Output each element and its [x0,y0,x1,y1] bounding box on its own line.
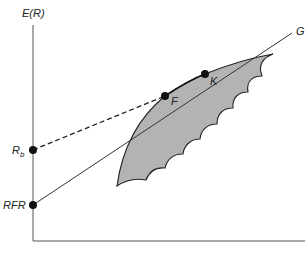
y-axis-label: E(R) [22,7,45,19]
capital-market-line-rfr-g [33,33,292,205]
feasible-set-region [117,54,273,186]
point-rfr [29,201,37,209]
label-g: G [296,25,305,37]
label-rfr: RFR [3,199,26,211]
label-rb-main: R [12,144,20,156]
label-rb: Rb [12,144,25,159]
efficient-frontier-diagram: E(R) G K F Rb RFR [0,0,308,253]
point-f [161,92,169,100]
point-rb [29,146,37,154]
point-k [201,70,209,78]
label-k: K [210,75,218,87]
label-rb-sub: b [20,150,25,159]
